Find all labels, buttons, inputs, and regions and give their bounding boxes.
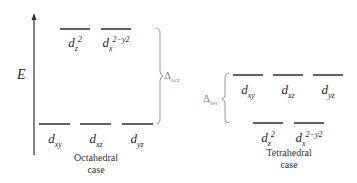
delta-tet-brace	[222, 73, 229, 123]
oct-label-dx2y2: dx2−y2	[102, 36, 129, 53]
oct-label-dxy: dxy	[48, 132, 62, 149]
energy-axis-label: E	[17, 68, 26, 82]
tet-label-dxz: dxz	[281, 83, 294, 100]
axis-arrow-icon	[32, 13, 37, 20]
octahedral-caption: Octahedral case	[74, 152, 118, 176]
tet-label-dyz: dyz	[321, 83, 334, 100]
delta-tet-label: Δtet	[203, 93, 217, 107]
tetrahedral-caption-line2: case	[266, 159, 311, 171]
oct-label-dxz: dxz	[89, 132, 102, 149]
delta-oct-label: Δoct	[164, 70, 180, 84]
tetrahedral-caption: Tetrahedral case	[266, 147, 311, 171]
oct-label-dz2: dz2	[68, 36, 82, 53]
tetrahedral-caption-line1: Tetrahedral	[266, 147, 311, 159]
tet-label-dxy: dxy	[241, 83, 255, 100]
oct-label-dyz: dyz	[130, 132, 143, 149]
delta-oct-brace	[156, 28, 163, 124]
tet-label-dz2: dz2	[261, 131, 275, 148]
octahedral-caption-line1: Octahedral	[74, 152, 118, 164]
octahedral-caption-line2: case	[74, 164, 118, 176]
tet-label-dx2y2: dx2−y2	[295, 131, 322, 148]
